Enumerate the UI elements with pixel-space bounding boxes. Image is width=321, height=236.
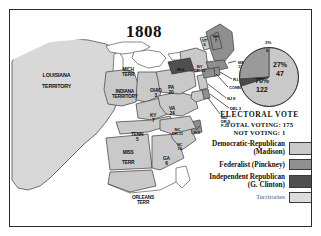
legend-independent-republican: Independent Republican (G. Clinton) [196,173,312,189]
pie-label-dem-rep-votes: 122 [256,86,268,93]
electoral-vote-summary: ELECTORAL VOTE TOTAL VOTING: 175 NOT VOT… [206,110,312,137]
state-orleans-territory [108,170,156,192]
legend-independent-republican-label: Independent Republican (G. Clinton) [196,173,289,189]
legend-democratic-republican-label: Democratic-Republican (Madison) [196,140,289,156]
map-label-independent-republican-block: IR-6 [177,68,184,72]
legend-federalist-label: Federalist (Pinckney) [196,161,289,169]
map-title: 1808 [126,22,162,42]
map-label-ohio: OHIO 3 [150,89,161,99]
map-label-georgia: GA 6 [163,157,170,167]
map-label-kentucky: KY 7 [150,114,156,124]
legend-territories-swatch [289,192,312,203]
map-callout-new-jersey: NJ 8 [227,97,235,101]
leader-mass [228,61,236,63]
map-label-nc-federalist: F-3 [194,131,200,135]
electoral-vote-total: TOTAL VOTING: 175 [206,121,312,128]
leader-ri [220,72,232,79]
electoral-vote-heading: ELECTORAL VOTE [206,110,312,119]
pie-label-federalist-pct: 27% [273,61,287,68]
pie-label-federalist-votes: 47 [276,70,284,77]
pie-label-ind-rep-pct: 3% [265,40,271,45]
electoral-vote-pie-chart: 70%12227%473%6 [238,46,300,108]
map-label-vermont: VT 6 [202,39,207,47]
map-label-virginia: VA 24 [169,107,175,117]
map-label-new-york: NY DR-13 [194,65,205,73]
map-label-louisiana-territory: LOUISIANA TERRITORY [42,73,71,89]
map-label-north-carolina: NC DR-11 [172,128,183,136]
map-label-indiana-territory: INDIANA TERRITORY [112,90,138,100]
legend-territories-label: Territories [196,194,289,202]
leader-nj [208,84,226,98]
legend-democratic-republican: Democratic-Republican (Madison) [196,140,312,156]
florida-outline [176,166,190,188]
legend-federalist-swatch [289,159,312,170]
map-label-michigan-territory: MICH TERR [122,68,134,78]
pie-slice-federalist [240,48,270,80]
map-frame: 1808 LOUISIANA TERRITORYMICH TERRINDIANA… [9,9,312,227]
map-label-mississippi-territory: MISS TERR [122,151,134,165]
map-legend: Democratic-Republican (Madison)Federalis… [196,140,312,206]
pie-label-ind-rep-votes: 6 [266,48,268,53]
louisiana-territory-shape [12,38,122,190]
map-label-tennessee: TENN 5 [131,133,143,143]
legend-federalist: Federalist (Pinckney) [196,159,312,170]
map-label-orleans-territory: ORLEANS TERR [132,196,154,206]
screenshot-root: 1808 LOUISIANA TERRITORYMICH TERRINDIANA… [0,0,321,236]
legend-democratic-republican-swatch [289,142,312,155]
map-label-south-carolina: SC 10 [177,143,182,151]
lake-huron-erie [132,50,166,68]
map-label-new-hampshire: NH 7 [213,35,219,43]
legend-territories: Territories [196,192,312,203]
pie-label-dem-rep-pct: 70% [255,77,269,84]
legend-independent-republican-swatch [289,175,312,188]
electoral-vote-not-voting: NOT VOTING: 1 [206,129,312,136]
map-label-pennsylvania: PA 20 [168,86,174,96]
